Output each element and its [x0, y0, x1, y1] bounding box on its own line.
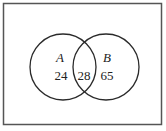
set-a-label: A: [55, 50, 64, 65]
b-only-value: 65: [101, 68, 114, 83]
intersection-value: 28: [78, 68, 91, 83]
a-only-value: 24: [55, 68, 69, 83]
set-b-label: B: [103, 50, 111, 65]
circle-a: [30, 34, 96, 100]
venn-diagram: A B 24 28 65: [0, 0, 166, 131]
circle-b: [73, 34, 139, 100]
universal-set-rectangle: [4, 4, 162, 125]
